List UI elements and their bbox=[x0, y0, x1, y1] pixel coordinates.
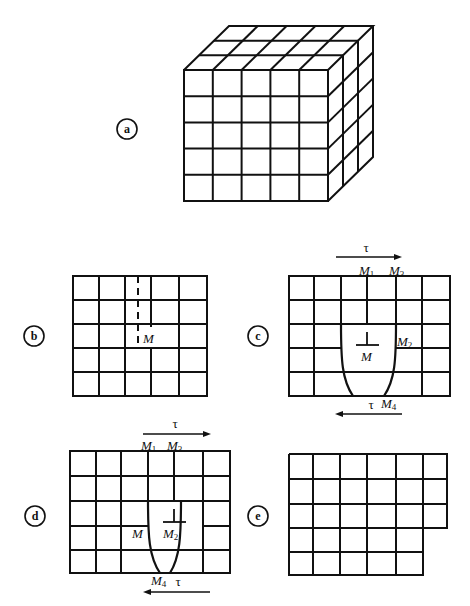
svg-text:a: a bbox=[124, 122, 130, 136]
label-m2-c: M2 bbox=[396, 334, 412, 350]
cube-lattice bbox=[184, 26, 373, 201]
panel-a: a bbox=[117, 26, 373, 201]
label-m1-d: M1 bbox=[140, 438, 156, 454]
svg-text:τ: τ bbox=[363, 240, 368, 255]
label-m4-c: M4 bbox=[380, 396, 397, 412]
dislocation-figure: a bbox=[0, 0, 470, 606]
label-m-c: M bbox=[360, 349, 373, 364]
panel-c: c M M1 M3 M2 M4 τ bbox=[248, 240, 450, 417]
shear-arrow-top-d: τ bbox=[143, 416, 211, 437]
panel-b: b M bbox=[24, 276, 207, 396]
dislocation-symbol-c bbox=[356, 332, 379, 345]
panel-e-label: e bbox=[248, 506, 268, 526]
svg-text:τ: τ bbox=[368, 397, 373, 412]
panel-a-label: a bbox=[117, 119, 137, 139]
lattice-e bbox=[289, 454, 447, 575]
panel-d-label: d bbox=[25, 506, 45, 526]
label-m2-d: M2 bbox=[162, 526, 178, 542]
label-m3-c: M3 bbox=[388, 263, 405, 279]
label-m-d: M bbox=[131, 526, 144, 541]
panel-b-label: b bbox=[24, 326, 44, 346]
panel-c-label: c bbox=[248, 326, 268, 346]
shear-arrow-top-c: τ bbox=[336, 240, 402, 260]
label-m1-c: M1 bbox=[358, 263, 374, 279]
lattice-b bbox=[73, 276, 207, 396]
svg-text:c: c bbox=[255, 329, 261, 343]
svg-text:τ: τ bbox=[172, 416, 177, 431]
svg-text:d: d bbox=[32, 509, 39, 523]
panel-d: d M M2 M1 M3 M4 τ bbox=[25, 416, 230, 595]
label-m4-d: M4 bbox=[150, 573, 167, 589]
svg-text:b: b bbox=[31, 329, 38, 343]
label-m3-d: M3 bbox=[166, 438, 183, 454]
lattice-d bbox=[70, 451, 230, 573]
dislocation-label-m: M bbox=[142, 331, 155, 346]
svg-text:τ: τ bbox=[175, 574, 180, 589]
lattice-c bbox=[289, 276, 450, 396]
dislocation-symbol-d bbox=[163, 509, 186, 522]
panel-e: e bbox=[248, 454, 447, 575]
svg-text:e: e bbox=[255, 509, 261, 523]
